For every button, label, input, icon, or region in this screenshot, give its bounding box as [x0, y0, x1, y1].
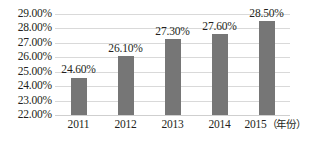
x-axis-tick-label: 2012: [114, 119, 136, 131]
x-axis-tick-label: 2011: [68, 119, 90, 131]
bar[interactable]: [71, 78, 87, 116]
bar-chart: 29.00%28.00%27.00%26.00%25.00%24.00%23.0…: [0, 0, 326, 145]
bar-value-label: 24.60%: [61, 64, 95, 76]
bar[interactable]: [212, 34, 228, 115]
bar-value-label: 28.50%: [249, 8, 283, 20]
x-axis-labels: 20112012201320142015（年份）: [55, 119, 290, 139]
bar[interactable]: [259, 21, 275, 115]
y-axis-labels: 29.00%28.00%27.00%26.00%25.00%24.00%23.0…: [0, 14, 52, 115]
x-axis-category: 2015: [244, 118, 266, 130]
x-axis-tick-label: 2013: [161, 119, 183, 131]
y-axis-tick-label: 25.00%: [18, 66, 52, 78]
bar-value-label: 26.10%: [108, 43, 142, 55]
y-axis-tick-label: 27.00%: [18, 37, 52, 49]
y-axis-tick-label: 22.00%: [18, 109, 52, 121]
y-axis-tick-label: 23.00%: [18, 95, 52, 107]
y-axis-tick-label: 28.00%: [18, 23, 52, 35]
bar-value-label: 27.60%: [202, 21, 236, 33]
x-axis-category: 2011: [68, 118, 90, 130]
gridline: [55, 115, 290, 116]
plot-area: 24.60%26.10%27.30%27.60%28.50%: [55, 14, 290, 115]
x-axis-category: 2014: [208, 118, 230, 130]
x-axis-category: 2012: [114, 118, 136, 130]
bar[interactable]: [118, 56, 134, 115]
y-axis-tick-label: 24.00%: [18, 80, 52, 92]
x-axis-tick-label: 2014: [208, 119, 230, 131]
y-axis-tick-label: 29.00%: [18, 8, 52, 20]
x-axis-tick-label: 2015（年份）: [244, 119, 305, 131]
bar[interactable]: [165, 39, 181, 115]
y-axis-tick-label: 26.00%: [18, 52, 52, 64]
bar-value-label: 27.30%: [155, 26, 189, 38]
x-axis-category: 2013: [161, 118, 183, 130]
x-axis-unit-label: （年份）: [267, 119, 306, 130]
